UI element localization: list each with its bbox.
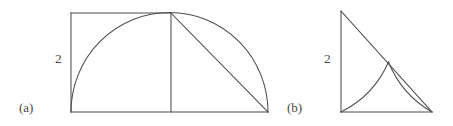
figure-a-group — [71, 12, 268, 112]
geometry-figure-panel: 2 2 (a) (b) — [0, 0, 453, 126]
figure-b-hypotenuse — [341, 11, 432, 112]
figure-b-group — [341, 11, 432, 112]
figure-a-dimension-label: 2 — [55, 52, 62, 66]
figure-b-dimension-label: 2 — [324, 52, 331, 66]
figure-b-caption: (b) — [287, 101, 302, 114]
figure-b-large-arc — [341, 62, 389, 112]
figure-a-semicircle-arc — [71, 12, 268, 112]
geometry-svg — [0, 0, 453, 126]
figure-a-chord — [171, 13, 268, 112]
figure-a-caption: (a) — [19, 101, 33, 114]
